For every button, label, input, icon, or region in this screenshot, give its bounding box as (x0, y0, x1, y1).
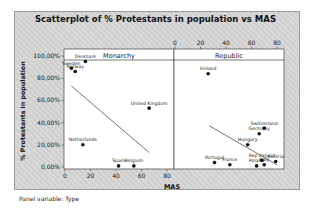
panel-strip-label: Republic (215, 52, 243, 60)
data-point (213, 161, 217, 165)
y-tick-label: 0,00% (41, 163, 60, 170)
data-point (81, 143, 85, 147)
x-tick-label: 60 (138, 172, 146, 179)
point-label: Germany (249, 126, 270, 131)
data-point (274, 160, 278, 164)
x-tick-label: 40 (222, 39, 230, 46)
point-label: Spain (112, 158, 125, 163)
x-tick-label: 80 (273, 39, 281, 46)
x-tick-label: 40 (112, 172, 120, 179)
y-tick-label: 100,00% (33, 52, 60, 59)
x-axis-label: MAS (164, 183, 180, 191)
data-point (246, 143, 250, 147)
point-label: Denmark (75, 54, 96, 59)
x-tick-label: 0 (63, 172, 67, 179)
point-label: Portugal (205, 155, 224, 160)
data-point (262, 163, 266, 167)
y-tick-label: 80,00% (37, 74, 60, 81)
data-point (255, 164, 259, 168)
panel-variable-label: Panel variable: Type (19, 195, 79, 202)
y-tick-label: 20,00% (37, 141, 60, 148)
x-tick-label: 0 (173, 39, 177, 46)
point-label: Belgium (124, 158, 143, 163)
data-point (117, 164, 121, 168)
point-label: France (222, 157, 237, 162)
point-label: United Kingdom (131, 101, 168, 106)
data-point (147, 106, 151, 110)
x-tick-label: 20 (197, 39, 205, 46)
x-tick-label: 60 (248, 39, 256, 46)
point-label: Italy (259, 157, 269, 162)
y-tick-label: 60,00% (37, 96, 60, 103)
data-point (73, 70, 77, 74)
data-point (206, 72, 210, 76)
point-label: Switzerland (251, 121, 278, 126)
point-label: Hungary (238, 137, 258, 142)
data-point (132, 164, 136, 168)
point-label: Netherlands (69, 137, 98, 142)
data-point (228, 163, 232, 167)
panel-republic (174, 49, 284, 169)
point-label: Norway (66, 64, 84, 69)
point-label: Austria (268, 154, 284, 159)
point-label: Finland (200, 66, 216, 71)
y-tick-label: 40,00% (37, 119, 60, 126)
panel-strip-label: Monarchy (103, 52, 135, 60)
scatter-plot: MonarchySwedenDenmarkNorwayUnited Kingdo… (0, 0, 311, 219)
x-tick-label: 20 (87, 172, 95, 179)
x-tick-label: 80 (163, 172, 171, 179)
data-point (84, 60, 88, 64)
data-point (257, 132, 261, 136)
y-axis-label: % Protestants in population (19, 61, 27, 160)
